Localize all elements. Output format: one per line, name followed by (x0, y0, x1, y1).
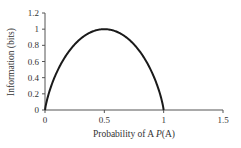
x-tick-label: 1.5 (217, 115, 229, 125)
y-tick-label: 0.6 (28, 57, 40, 67)
y-tick-label: 0 (35, 105, 40, 115)
y-axis: 00.20.40.60.811.2 (28, 8, 45, 115)
y-tick-label: 0.8 (28, 40, 40, 50)
x-tick-label: 0.5 (99, 115, 111, 125)
x-axis-title-suffix: (A) (162, 129, 175, 140)
y-tick-label: 0.2 (28, 89, 39, 99)
x-tick-label: 0 (43, 115, 48, 125)
x-axis-title-prefix: Probability of A (93, 129, 156, 139)
x-tick-label: 1 (161, 115, 166, 125)
y-axis-title: Information (bits) (6, 28, 17, 96)
x-axis-title: Probability of A P(A) (93, 129, 175, 140)
x-axis: 00.511.5 (43, 110, 229, 125)
y-tick-label: 1 (35, 24, 40, 34)
y-tick-label: 0.4 (28, 73, 40, 83)
entropy-curve (45, 29, 164, 110)
y-tick-label: 1.2 (28, 8, 39, 18)
chart-svg: 00.20.40.60.811.2 00.511.5 Information (… (0, 0, 241, 148)
